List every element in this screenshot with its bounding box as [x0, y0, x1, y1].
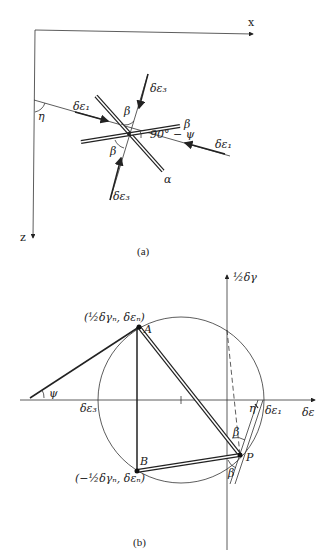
- z-axis-label: z: [20, 231, 26, 244]
- beta-label-upper: β: [232, 426, 239, 439]
- beta-label-lower: β: [227, 467, 234, 480]
- de3-arrow-top: [139, 74, 148, 108]
- angle-label: 90° − ψ: [150, 128, 195, 141]
- psi-arc: [42, 390, 44, 398]
- caption-a: (a): [137, 245, 150, 258]
- psi-line: [30, 327, 139, 398]
- point-b-label: B: [139, 455, 148, 468]
- de3-label-top: δε₃: [150, 82, 167, 95]
- x-axis: [35, 30, 253, 34]
- eta-label: η: [38, 110, 45, 123]
- de3-label: δε₃: [80, 402, 97, 415]
- caption-b: (b): [133, 536, 146, 549]
- de1-arrow-left: [75, 112, 108, 121]
- figure-canvas: x z η δε₁ δε₁ δε₃ δε₃ α β β β: [0, 0, 333, 554]
- psi-label: ψ: [49, 387, 58, 400]
- z-axis: [33, 30, 35, 238]
- point-p: [238, 453, 243, 458]
- point-p-label: P: [245, 451, 254, 464]
- de1-label-left: δε₁: [73, 100, 90, 113]
- beta-label-left: β: [109, 145, 116, 158]
- eta-label-b: η: [249, 402, 256, 415]
- alpha-label: α: [164, 173, 172, 186]
- beta-arc-top: [121, 121, 134, 125]
- point-a: [137, 325, 142, 330]
- figure-a: x z η δε₁ δε₁ δε₃ δε₃ α β β β: [20, 16, 255, 258]
- point-a-label: A: [143, 323, 152, 336]
- center-point: [127, 132, 131, 136]
- x-axis-label: x: [248, 16, 255, 29]
- de-axis-label: δε: [302, 406, 315, 419]
- beta-label-top: β: [123, 105, 130, 118]
- figure-b: δε ½δγ ψ A B P (½δγₙ, δεₙ) (−½δγₙ: [20, 271, 315, 550]
- coord-a-label: (½δγₙ, δεₙ): [84, 311, 145, 324]
- dgamma-axis-label: ½δγ: [233, 271, 257, 284]
- coord-b-label: (−½δγₙ, δεₙ): [75, 472, 145, 485]
- de1-label: δε₁: [265, 404, 282, 417]
- de3-label-bottom: δε₃: [113, 190, 130, 203]
- de1-label-right: δε₁: [215, 138, 232, 151]
